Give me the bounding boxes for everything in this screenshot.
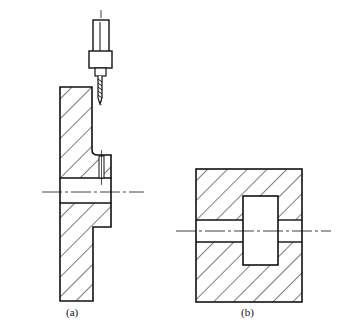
part-b-section [176, 169, 331, 302]
label-b: (b) [241, 306, 254, 318]
label-a: (a) [66, 306, 78, 318]
part-a-section [42, 87, 144, 301]
technical-drawing [0, 0, 344, 334]
